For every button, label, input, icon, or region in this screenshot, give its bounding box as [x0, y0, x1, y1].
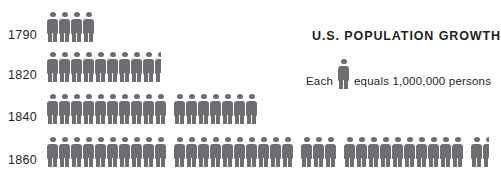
person-icon-legs	[48, 115, 57, 124]
icon-group	[47, 137, 167, 167]
person-icon-body	[83, 59, 94, 74]
person-icon	[222, 94, 233, 124]
person-icon-legs	[144, 115, 153, 124]
icon-group	[47, 94, 167, 124]
person-icon-body	[325, 144, 336, 159]
person-icon-head	[74, 12, 80, 17]
person-icon-head	[347, 137, 353, 142]
person-icon	[282, 137, 293, 167]
person-icon-head	[50, 94, 56, 99]
person-icon-body	[71, 19, 82, 34]
person-icon-head	[98, 137, 104, 142]
person-icon	[47, 12, 58, 42]
person-icon	[95, 52, 106, 82]
person-icon-head	[443, 137, 449, 142]
person-icon-head	[201, 137, 207, 142]
person-icon-body	[198, 144, 209, 159]
person-icon-half	[155, 52, 161, 82]
person-icon-legs	[247, 115, 256, 124]
person-icon-legs	[302, 158, 311, 167]
person-icon-legs	[72, 158, 81, 167]
person-icon-head	[86, 12, 92, 17]
person-icon-body	[155, 144, 166, 159]
person-icon-body	[246, 101, 257, 116]
person-icon-legs	[271, 158, 280, 167]
person-icon	[107, 137, 118, 167]
person-icon	[71, 137, 82, 167]
person-icon-legs	[235, 115, 244, 124]
person-icon-body	[452, 144, 463, 159]
person-icon-legs	[108, 158, 117, 167]
person-icon	[47, 52, 58, 82]
person-icon-body	[83, 19, 94, 34]
person-icon-body	[344, 144, 355, 159]
person-icon	[301, 137, 312, 167]
person-icon-legs	[120, 115, 129, 124]
person-icon-body	[186, 101, 197, 116]
person-icon-body	[95, 101, 106, 116]
person-icon-body	[155, 59, 161, 74]
person-icon-body	[119, 144, 130, 159]
person-icon-body	[83, 144, 94, 159]
icon-group	[174, 137, 294, 167]
person-icon-body	[143, 101, 154, 116]
person-icon	[143, 94, 154, 124]
person-icon	[440, 137, 451, 167]
pictogram-row: 1840	[0, 86, 495, 126]
person-icon	[59, 12, 70, 42]
person-icon-legs	[96, 115, 105, 124]
person-icon	[131, 52, 142, 82]
person-icon-body	[428, 144, 439, 159]
person-icon	[174, 137, 185, 167]
person-icon-head	[98, 94, 104, 99]
person-icon-legs	[283, 158, 292, 167]
person-icon-legs	[429, 158, 438, 167]
person-icon-legs	[223, 158, 232, 167]
person-icon-body	[95, 144, 106, 159]
person-icon	[234, 94, 245, 124]
person-icon	[380, 137, 391, 167]
person-icon	[47, 137, 58, 167]
person-icon-legs	[60, 158, 69, 167]
person-icon-head	[158, 52, 162, 57]
person-icon-head	[62, 137, 68, 142]
person-icon	[344, 137, 355, 167]
person-icon-head	[395, 137, 401, 142]
person-icon-body	[222, 101, 233, 116]
person-icon-legs	[175, 115, 184, 124]
row-year-label: 1820	[8, 68, 48, 82]
person-icon-body	[143, 59, 154, 74]
person-icon-body	[313, 144, 324, 159]
person-icon	[392, 137, 403, 167]
person-icon	[59, 137, 70, 167]
person-icon-body	[234, 101, 245, 116]
person-icon	[95, 94, 106, 124]
person-icon-head	[98, 52, 104, 57]
person-icon	[155, 137, 166, 167]
person-icon-head	[419, 137, 425, 142]
person-icon-body	[222, 144, 233, 159]
person-icon-body	[143, 144, 154, 159]
person-icon-head	[146, 94, 152, 99]
person-icon-head	[249, 94, 255, 99]
person-icon	[198, 94, 209, 124]
person-icon	[131, 94, 142, 124]
person-icon-head	[237, 137, 243, 142]
person-icon-body	[107, 101, 118, 116]
person-icon	[404, 137, 415, 167]
person-icon-legs	[441, 158, 450, 167]
person-icon-legs	[60, 115, 69, 124]
person-icon-body	[59, 59, 70, 74]
person-icon-head	[359, 137, 365, 142]
person-icon-head	[225, 137, 231, 142]
person-icon-legs	[326, 158, 335, 167]
person-icon-head	[110, 137, 116, 142]
person-icon	[198, 137, 209, 167]
row-icons	[47, 8, 95, 42]
person-icon-body	[131, 101, 142, 116]
person-icon	[258, 137, 269, 167]
person-icon-body	[380, 144, 391, 159]
person-icon-head	[237, 94, 243, 99]
person-icon-legs	[453, 158, 462, 167]
person-icon-head	[407, 137, 413, 142]
